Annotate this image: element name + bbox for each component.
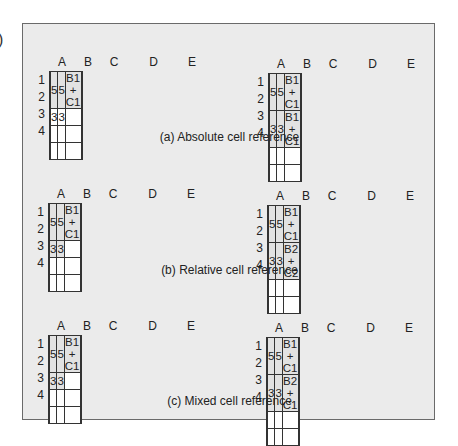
cell-C2: 3 <box>58 109 65 126</box>
cell-C4 <box>58 143 65 160</box>
cell-E4 <box>298 429 299 446</box>
cell-C3 <box>276 280 283 297</box>
cell-D2 <box>64 373 80 390</box>
column-header: E <box>397 321 421 335</box>
cell-D4 <box>284 165 300 182</box>
diagram-panel: ABCDE123455B1 + C133ABCDE123455B1 + C133… <box>22 23 435 420</box>
cell-C4 <box>276 297 283 314</box>
cell-C4 <box>277 165 284 182</box>
row-header: 3 <box>32 239 44 253</box>
cell-B2: 3 <box>50 373 57 390</box>
cell-C3 <box>275 412 282 429</box>
cell-grid: 55B1 + C133B2 + C1 <box>266 337 300 446</box>
cell-E4 <box>80 407 81 424</box>
cell-D2 <box>64 241 80 258</box>
cell-B4 <box>50 275 57 292</box>
section-caption: (a) Absolute cell reference <box>23 130 436 144</box>
cell-B3 <box>270 148 277 165</box>
cell-grid: 55B1 + C133 <box>48 203 82 292</box>
column-header: A <box>266 321 292 335</box>
row-header: 2 <box>250 356 262 370</box>
cell-E1 <box>299 206 300 243</box>
cell-C1: 5 <box>276 206 283 243</box>
cell-C4 <box>57 275 64 292</box>
column-header: E <box>398 189 422 203</box>
cell-D3 <box>283 280 299 297</box>
column-header: E <box>179 319 203 333</box>
cell-E1 <box>298 338 299 375</box>
column-header: C <box>320 57 346 71</box>
cell-E3 <box>299 280 300 297</box>
row-header: 1 <box>252 75 264 89</box>
cell-C1: 5 <box>277 74 284 111</box>
cell-B2: 3 <box>50 241 57 258</box>
cell-B4 <box>50 407 57 424</box>
row-header: 1 <box>250 339 262 353</box>
row-header: 2 <box>251 224 263 238</box>
cell-C4 <box>57 407 64 424</box>
row-header: 1 <box>32 205 44 219</box>
column-header: A <box>268 57 294 71</box>
cell-D2 <box>65 109 81 126</box>
row-header: 1 <box>32 337 44 351</box>
cell-D1: B1 + C1 <box>282 338 298 375</box>
cell-E2 <box>80 373 81 390</box>
column-header: B <box>74 187 100 201</box>
cell-C1: 5 <box>58 72 65 109</box>
row-header: 1 <box>33 73 45 87</box>
cell-E4 <box>80 275 81 292</box>
cell-B4 <box>51 143 58 160</box>
section-caption: (b) Relative cell reference <box>23 263 436 277</box>
cell-D3 <box>284 148 300 165</box>
column-header: D <box>127 55 180 69</box>
cell-D3 <box>282 412 298 429</box>
cell-D4 <box>64 275 80 292</box>
column-header: B <box>294 57 320 71</box>
cell-E4 <box>81 143 82 160</box>
cell-E2 <box>80 241 81 258</box>
stray-parenthesis: ) <box>0 31 3 49</box>
column-header: A <box>48 319 74 333</box>
row-header: 3 <box>33 107 45 121</box>
column-header: D <box>126 319 179 333</box>
cell-E3 <box>298 412 299 429</box>
cell-E2 <box>81 109 82 126</box>
cell-B4 <box>270 165 277 182</box>
cell-D4 <box>65 143 81 160</box>
cell-E4 <box>299 297 300 314</box>
column-header: C <box>100 319 126 333</box>
cell-grid: 55B1 + C133B2 + C2 <box>267 205 301 314</box>
column-header: B <box>292 321 318 335</box>
cell-C1: 5 <box>57 204 64 241</box>
cell-B1: 5 <box>51 72 58 109</box>
row-header: 2 <box>252 92 264 106</box>
cell-B1: 5 <box>50 336 57 373</box>
column-header: D <box>346 57 399 71</box>
column-header: E <box>399 57 423 71</box>
cell-C1: 5 <box>57 336 64 373</box>
column-header: C <box>319 189 345 203</box>
cell-B1: 5 <box>50 204 57 241</box>
row-header: 2 <box>32 222 44 236</box>
cell-grid: 55B1 + C133 <box>49 71 83 160</box>
cell-D1: B1 + C1 <box>64 336 80 373</box>
row-header: 3 <box>32 371 44 385</box>
row-header: 3 <box>252 109 264 123</box>
column-header: B <box>293 189 319 203</box>
column-header: D <box>126 187 179 201</box>
cell-B3 <box>269 280 276 297</box>
column-header: A <box>267 189 293 203</box>
section-caption: (c) Mixed cell reference <box>23 394 436 408</box>
cell-D1: B1 + C1 <box>284 74 300 111</box>
cell-D4 <box>283 297 299 314</box>
cell-D4 <box>64 407 80 424</box>
cell-E1 <box>81 72 82 109</box>
cell-E1 <box>300 74 301 111</box>
column-header: B <box>74 319 100 333</box>
row-header: 2 <box>32 354 44 368</box>
column-header: B <box>75 55 101 69</box>
cell-C2: 3 <box>57 241 64 258</box>
column-header: C <box>318 321 344 335</box>
row-header: 2 <box>33 90 45 104</box>
cell-grid: 55B1 + C133 <box>48 335 82 424</box>
